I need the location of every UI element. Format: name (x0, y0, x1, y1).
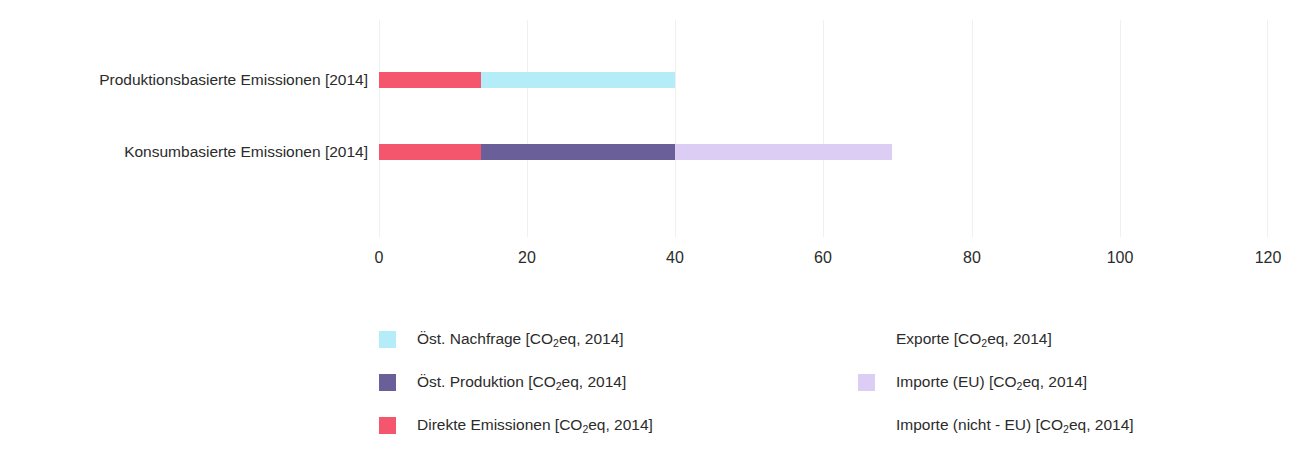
legend-item-label: Öst. Produktion [CO2eq, 2014] (417, 373, 626, 392)
legend-item-label: Öst. Nachfrage [CO2eq, 2014] (417, 330, 624, 349)
x-tick-60: 60 (783, 248, 863, 268)
legend-item[interactable]: Importe (nicht - EU) [CO2eq, 2014] (858, 404, 1298, 447)
x-tick-80: 80 (932, 248, 1012, 268)
legend-item-label: Importe (nicht - EU) [CO2eq, 2014] (896, 416, 1134, 435)
bar-konsumbasierte-emissionen (379, 144, 1268, 160)
bar-segment (481, 72, 675, 88)
bar-segment (481, 144, 675, 160)
gridline-80 (972, 20, 973, 237)
legend-swatch-icon (379, 374, 396, 391)
legend-swatch-icon (858, 331, 875, 348)
bar-segment (675, 144, 891, 160)
legend-swatch-icon (379, 417, 396, 434)
gridline-0 (379, 20, 380, 237)
legend-column-left: Öst. Nachfrage [CO2eq, 2014]Öst. Produkt… (379, 318, 819, 447)
stacked-bar-chart: Produktionsbasierte Emissionen [2014] Ko… (0, 0, 1312, 470)
gridline-100 (1120, 20, 1121, 237)
gridline-20 (527, 20, 528, 237)
gridline-40 (675, 20, 676, 237)
bar-segment (379, 144, 481, 160)
legend-item[interactable]: Direkte Emissionen [CO2eq, 2014] (379, 404, 819, 447)
legend-item[interactable]: Exporte [CO2eq, 2014] (858, 318, 1298, 361)
x-tick-120: 120 (1228, 248, 1308, 268)
bar-segment (379, 72, 481, 88)
legend-swatch-icon (379, 331, 396, 348)
legend-item-label: Direkte Emissionen [CO2eq, 2014] (417, 416, 653, 435)
legend-column-right: Exporte [CO2eq, 2014]Importe (EU) [CO2eq… (858, 318, 1298, 447)
gridline-60 (823, 20, 824, 237)
legend-item[interactable]: Importe (EU) [CO2eq, 2014] (858, 361, 1298, 404)
category-label-konsumbasiert: Konsumbasierte Emissionen [2014] (0, 144, 368, 160)
legend-swatch-icon (858, 374, 875, 391)
bar-produktionsbasierte-emissionen (379, 72, 1268, 88)
legend-item[interactable]: Öst. Produktion [CO2eq, 2014] (379, 361, 819, 404)
legend-swatch-icon (858, 417, 875, 434)
legend-item-label: Exporte [CO2eq, 2014] (896, 330, 1052, 349)
legend-item-label: Importe (EU) [CO2eq, 2014] (896, 373, 1087, 392)
x-tick-100: 100 (1080, 248, 1160, 268)
gridline-120 (1267, 20, 1268, 237)
legend-item[interactable]: Öst. Nachfrage [CO2eq, 2014] (379, 318, 819, 361)
x-tick-40: 40 (635, 248, 715, 268)
x-tick-20: 20 (487, 248, 567, 268)
x-tick-0: 0 (339, 248, 419, 268)
category-label-produktionsbasiert: Produktionsbasierte Emissionen [2014] (0, 72, 368, 88)
chart-legend: Öst. Nachfrage [CO2eq, 2014]Öst. Produkt… (0, 318, 1312, 458)
plot-area (379, 20, 1268, 237)
